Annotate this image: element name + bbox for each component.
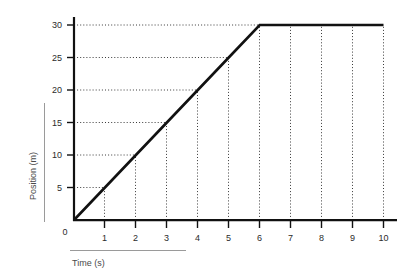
y-axis-title: Position (m) [28, 152, 38, 200]
xtick-label-6: 6 [257, 233, 262, 243]
ytick-label-5: 5 [57, 183, 62, 193]
xtick-label-10: 10 [378, 233, 388, 243]
ytick-label-20: 20 [52, 85, 62, 95]
xtick-label-3: 3 [164, 233, 169, 243]
position-vs-time-chart: Position (m) Time (s) [0, 0, 410, 275]
ytick-label-25: 25 [52, 53, 62, 63]
xtick-label-9: 9 [350, 233, 355, 243]
xtick-label-5: 5 [226, 233, 231, 243]
xtick-label-4: 4 [195, 233, 200, 243]
ytick-label-15: 15 [52, 118, 62, 128]
xtick-label-8: 8 [319, 233, 324, 243]
chart-canvas: Position (m) Time (s) [0, 0, 410, 275]
xtick-label-1: 1 [102, 233, 107, 243]
ytick-label-10: 10 [52, 150, 62, 160]
xtick-label-2: 2 [133, 233, 138, 243]
xtick-label-7: 7 [288, 233, 293, 243]
ytick-label-30: 30 [52, 20, 62, 30]
x-axis-title: Time (s) [72, 258, 105, 268]
ytick-label-0: 0 [62, 227, 67, 237]
data-series-position [74, 25, 384, 220]
